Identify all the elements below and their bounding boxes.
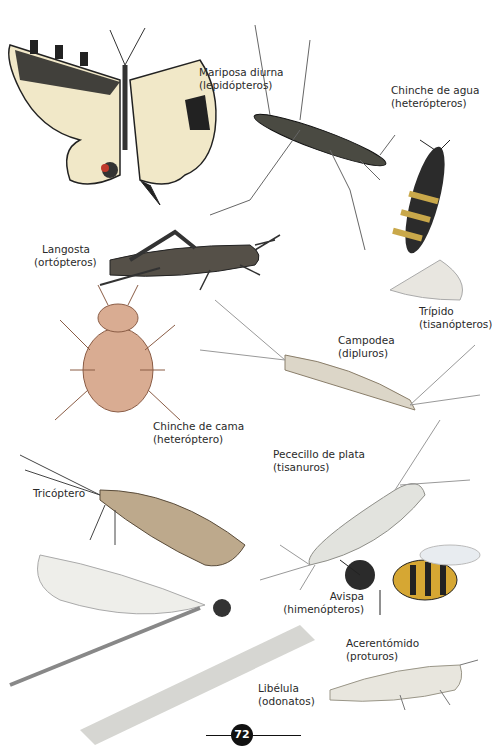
butterfly-icon — [9, 28, 216, 205]
label-tricoptero: Tricóptero — [33, 487, 85, 500]
page-footer: 72 — [0, 722, 482, 748]
proturan-icon — [330, 660, 478, 710]
label-mariposa: Mariposa diurna (lepidópteros) — [199, 66, 284, 92]
page-number-badge: 72 — [231, 724, 253, 746]
footer-rule-left — [206, 735, 231, 736]
label-campodea: Campodea (dipluros) — [338, 334, 395, 360]
label-chinche-cama: Chinche de cama (heteróptero) — [153, 420, 244, 446]
water-bug-icon — [210, 25, 395, 250]
label-avispa: Avispa (himenópteros) — [270, 590, 364, 616]
label-pececillo: Pececillo de plata (tisanuros) — [273, 448, 365, 474]
thrips-icon — [390, 140, 463, 300]
label-trips: Trípido (tisanópteros) — [419, 305, 492, 331]
label-libelula: Libélula (odonatos) — [258, 682, 315, 708]
caddisfly-icon — [20, 455, 245, 566]
footer-rule-right — [253, 735, 301, 736]
label-langosta: Langosta (ortópteros) — [34, 243, 90, 269]
label-acerentomido: Acerentómido (proturos) — [346, 637, 419, 663]
bedbug-icon — [55, 285, 180, 420]
label-chinche-agua: Chinche de agua (heterópteros) — [391, 84, 479, 110]
grasshopper-icon — [100, 232, 280, 290]
dragonfly-icon — [10, 555, 315, 745]
